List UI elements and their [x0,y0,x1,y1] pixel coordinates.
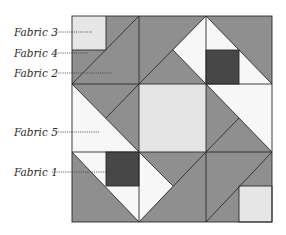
fabric3-square-top-left [72,16,106,50]
label-fabric3: Fabric 3 [14,26,58,38]
fabric3-square-bottom-right [239,186,272,222]
center-square [139,84,206,152]
label-fabric4: Fabric 4 [14,47,58,59]
fabric1-square-bottom-left [106,152,139,186]
label-fabric5: Fabric 5 [14,126,58,138]
fabric1-square-top-right [206,50,239,84]
label-fabric2: Fabric 2 [14,67,58,79]
label-fabric1: Fabric 1 [14,166,58,178]
